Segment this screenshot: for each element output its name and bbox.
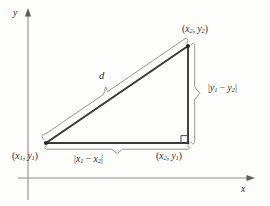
paren-close: ) bbox=[179, 151, 182, 161]
abs-bar-close: | bbox=[235, 83, 237, 93]
minus-operator: − bbox=[83, 154, 93, 164]
vertical-brace-path bbox=[191, 43, 199, 144]
y-axis-label: y bbox=[13, 9, 17, 19]
paren-close: ) bbox=[35, 151, 38, 161]
x-axis-arrowhead bbox=[247, 175, 256, 181]
point-label-upper-right: (x2, y2) bbox=[182, 25, 208, 35]
axes-group bbox=[18, 8, 255, 200]
point-label-lower-left: (x1, y1) bbox=[12, 152, 38, 162]
triangle-hypotenuse bbox=[46, 46, 188, 143]
horizontal-length-label: |x1 − x2| bbox=[74, 155, 103, 165]
abs-bar-close: | bbox=[101, 154, 103, 164]
point-label-lower-right: (x2, y1) bbox=[156, 152, 182, 162]
vertex-dot-upper-right bbox=[186, 44, 190, 48]
right-triangle-group bbox=[44, 44, 190, 145]
vertical-length-label: |y1 − y2| bbox=[208, 84, 237, 94]
minus-operator: − bbox=[217, 83, 227, 93]
right-angle-marker bbox=[181, 136, 188, 143]
hypotenuse-brace bbox=[42, 38, 188, 139]
distance-formula-figure: y x (x2, y2) (x1, y1) (x2, y1) |x1 − x2|… bbox=[0, 0, 270, 206]
vertex-dot-lower-left bbox=[44, 141, 48, 145]
x-axis-label: x bbox=[241, 185, 245, 195]
paren-close: ) bbox=[205, 24, 208, 34]
hypotenuse-length-label: d bbox=[99, 71, 104, 82]
figure-canvas bbox=[0, 0, 270, 206]
vertical-length-brace bbox=[191, 43, 199, 144]
y-axis-arrowhead bbox=[25, 8, 31, 17]
hypotenuse-brace-path bbox=[42, 38, 188, 139]
